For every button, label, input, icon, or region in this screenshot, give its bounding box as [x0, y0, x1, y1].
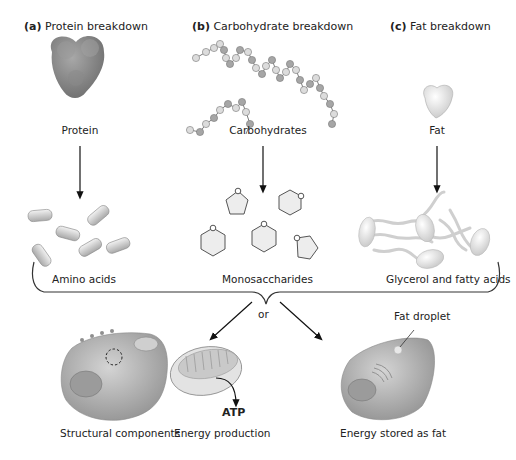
monosaccharides-icon [201, 188, 318, 259]
label-structural-components: Structural components [60, 427, 180, 439]
label-energy-production: Energy production [174, 427, 270, 439]
amino-acids-icon [28, 203, 132, 268]
arrow-to-cell-structure [212, 302, 252, 338]
label-carbohydrates: Carbohydrates [228, 124, 308, 136]
cell-structural-icon [61, 329, 167, 420]
label-energy-stored-as-fat: Energy stored as fat [340, 427, 446, 439]
diagram-graphics [0, 0, 516, 460]
label-fat: Fat [424, 124, 450, 136]
label-atp: ATP [222, 406, 245, 419]
label-glycerol-fatty-acids: Glycerol and fatty acids [386, 273, 511, 285]
glycerol-fatty-acids-icon [357, 192, 494, 271]
label-amino-acids: Amino acids [52, 273, 116, 285]
fat-droplet-icon [394, 346, 402, 354]
label-fat-droplet: Fat droplet [394, 310, 450, 322]
label-protein: Protein [60, 124, 100, 136]
label-monosaccharides: Monosaccharides [222, 273, 313, 285]
protein-molecule-icon [51, 36, 104, 98]
arrow-to-fat-storage [280, 302, 320, 338]
label-or: or [258, 308, 269, 320]
cell-fat-storage-icon [341, 330, 434, 420]
fat-molecule-icon [424, 85, 453, 118]
mitochondrion-icon [166, 341, 245, 404]
carbohydrate-chain-icon [186, 40, 337, 135]
